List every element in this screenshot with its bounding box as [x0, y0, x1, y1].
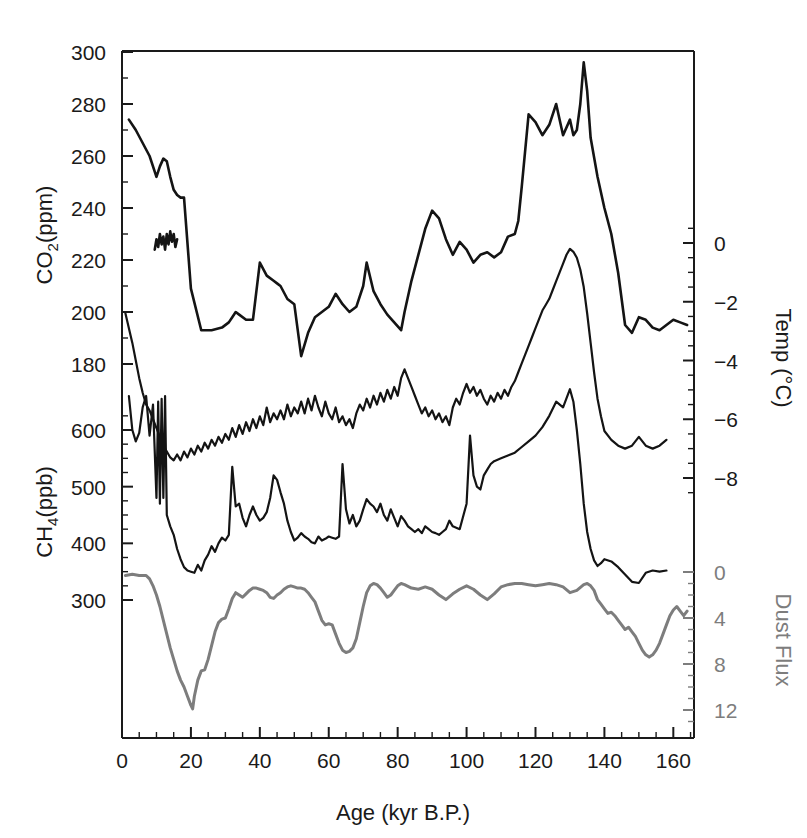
left_co2-tick-label: 220 — [71, 249, 106, 272]
right-temp-tick-labels: 0−2−4−6−8 — [714, 232, 738, 490]
x-tick-label: 120 — [518, 749, 553, 772]
left_co2-tick-label: 260 — [71, 145, 106, 168]
plot-frame — [122, 51, 694, 738]
right-dust-tick-labels: 04812 — [714, 561, 737, 722]
right-dust-axis-title: Dust Flux — [771, 594, 796, 687]
x-tick-label: 160 — [656, 749, 691, 772]
left_co2-tick-label: 280 — [71, 93, 106, 116]
ice-core-multi-panel-chart: 020406080100120140160 300280260240220200… — [0, 0, 807, 838]
right_temp-tick-label: −4 — [714, 350, 738, 373]
left_ch4-tick-label: 400 — [71, 532, 106, 555]
co2-title-main: CO — [32, 251, 57, 284]
left-co2-axis-ticks — [122, 52, 133, 364]
right_temp-tick-label: −6 — [714, 408, 738, 431]
x-tick-label: 20 — [179, 749, 202, 772]
right_dust-tick-label: 0 — [714, 561, 726, 584]
dust-title-text: Dust Flux — [771, 594, 796, 687]
right_temp-tick-label: −2 — [714, 291, 738, 314]
right_temp-tick-label: 0 — [714, 232, 726, 255]
right_temp-tick-label: −8 — [714, 467, 738, 490]
left_ch4-tick-label: 600 — [71, 419, 106, 442]
left-co2-axis-title: CO2(ppm) — [32, 186, 61, 285]
x-tick-label: 100 — [449, 749, 484, 772]
x-tick-label: 0 — [116, 749, 128, 772]
svg-text:CH4(ppb): CH4(ppb) — [32, 466, 61, 557]
co2-title-unit: (ppm) — [32, 186, 57, 243]
x-axis-ticks — [122, 727, 691, 738]
x-tick-label: 40 — [248, 749, 271, 772]
data-traces — [125, 62, 687, 708]
left_co2-tick-label: 300 — [71, 41, 106, 64]
co2-title-sub: 2 — [44, 243, 61, 251]
left-co2-tick-labels: 300280260240220200180 — [71, 41, 106, 376]
x-tick-label: 60 — [317, 749, 340, 772]
ch4-title-main: CH — [32, 526, 57, 558]
ch4-title-unit: (ppb) — [32, 466, 57, 517]
right_dust-tick-label: 4 — [714, 607, 726, 630]
right_dust-tick-label: 8 — [714, 653, 726, 676]
right-dust-axis-ticks — [683, 572, 694, 722]
x-tick-label: 80 — [386, 749, 409, 772]
figure-canvas: 020406080100120140160 300280260240220200… — [0, 0, 807, 838]
left-ch4-tick-labels: 600500400300 — [71, 419, 106, 612]
series-co2 — [129, 62, 687, 356]
right_dust-tick-label: 12 — [714, 699, 737, 722]
left_co2-tick-label: 200 — [71, 301, 106, 324]
x-axis-title: Age (kyr B.P.) — [336, 800, 470, 825]
left_ch4-tick-label: 500 — [71, 476, 106, 499]
x-axis-tick-labels: 020406080100120140160 — [116, 749, 691, 772]
right-temp-axis-title: Temp (°C) — [771, 308, 796, 407]
series-ch4 — [129, 389, 667, 583]
left_ch4-tick-label: 300 — [71, 589, 106, 612]
temp-title-text: Temp (°C) — [771, 308, 796, 407]
left-ch4-axis-title: CH4(ppb) — [32, 466, 61, 557]
x-tick-label: 140 — [587, 749, 622, 772]
series-dust-flux — [125, 574, 687, 709]
left_co2-tick-label: 180 — [71, 353, 106, 376]
right-temp-axis-ticks — [683, 228, 694, 492]
series-co2-high-resolution-ice-core-segment — [155, 231, 177, 249]
left-ch4-axis-ticks — [122, 416, 133, 600]
svg-text:CO2(ppm): CO2(ppm) — [32, 186, 61, 285]
ch4-title-sub: 4 — [44, 518, 61, 526]
series-temp — [125, 249, 666, 461]
left_co2-tick-label: 240 — [71, 197, 106, 220]
